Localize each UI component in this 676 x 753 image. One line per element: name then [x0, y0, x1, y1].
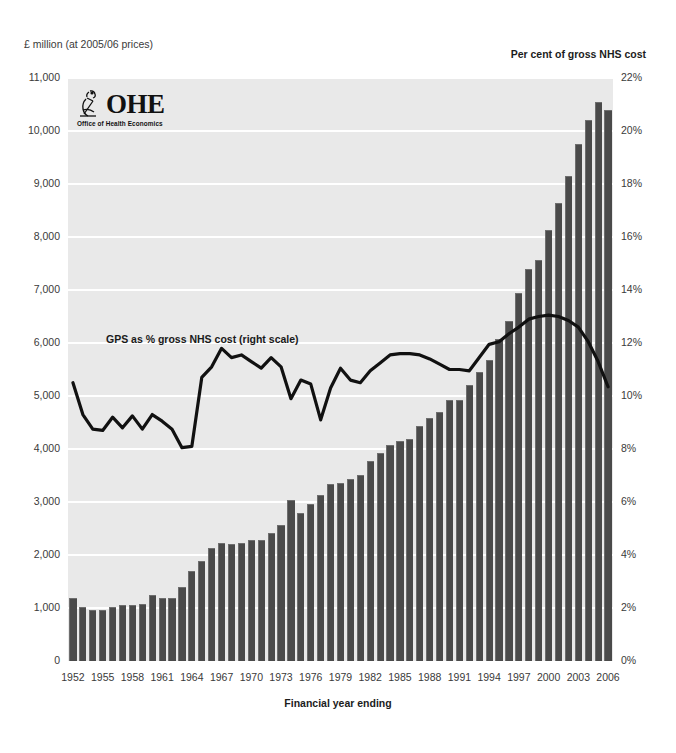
bar-1968 — [228, 544, 235, 661]
bar-1998 — [525, 269, 532, 661]
bar-1978 — [327, 484, 334, 661]
y-tick-left-10,000: 10,000 — [0, 124, 60, 136]
y-tick-left-9,000: 9,000 — [0, 177, 60, 189]
bar-1967 — [218, 543, 225, 661]
chart-figure: £ million (at 2005/06 prices) Per cent o… — [0, 0, 676, 753]
right-axis-caption: Per cent of gross NHS cost — [511, 48, 646, 60]
bar-2003 — [575, 144, 582, 661]
x-tick-2006: 2006 — [588, 671, 628, 683]
y-tick-left-6,000: 6,000 — [0, 336, 60, 348]
bar-1959 — [139, 604, 146, 661]
bar-2006 — [604, 110, 611, 661]
ohe-logo-subtitle: Office of Health Economics — [77, 120, 163, 127]
bar-2005 — [595, 102, 602, 661]
y-tick-left-4,000: 4,000 — [0, 442, 60, 454]
bar-1993 — [476, 372, 483, 661]
y-tick-left-1,000: 1,000 — [0, 601, 60, 613]
bar-1997 — [515, 293, 522, 661]
clipped-header-text — [0, 0, 676, 10]
bar-1954 — [89, 610, 96, 661]
bar-1987 — [416, 426, 423, 661]
bar-1965 — [198, 561, 205, 661]
bar-1990 — [446, 400, 453, 661]
bar-1996 — [505, 321, 512, 661]
y-tick-right-6%: 6% — [621, 495, 661, 507]
bar-1962 — [168, 598, 175, 661]
bar-1969 — [238, 543, 245, 661]
bar-1977 — [317, 495, 324, 661]
bar-1979 — [337, 483, 344, 661]
y-tick-right-10%: 10% — [621, 389, 661, 401]
y-tick-left-0: 0 — [0, 654, 60, 666]
bar-1992 — [466, 385, 473, 661]
bar-1988 — [426, 418, 433, 661]
series-annotation-label: GPS as % gross NHS cost (right scale) — [106, 333, 299, 345]
bar-1970 — [248, 540, 255, 661]
bar-1989 — [436, 412, 443, 661]
y-tick-right-12%: 12% — [621, 336, 661, 348]
x-axis-title: Financial year ending — [0, 697, 676, 709]
bar-1994 — [486, 360, 493, 661]
bar-1985 — [396, 441, 403, 661]
bar-1980 — [347, 479, 354, 661]
y-tick-right-16%: 16% — [621, 230, 661, 242]
bar-1972 — [268, 533, 275, 661]
y-tick-left-8,000: 8,000 — [0, 230, 60, 242]
y-tick-left-3,000: 3,000 — [0, 495, 60, 507]
bar-2000 — [545, 230, 552, 661]
y-tick-left-5,000: 5,000 — [0, 389, 60, 401]
bar-1961 — [159, 598, 166, 661]
y-tick-right-14%: 14% — [621, 283, 661, 295]
gridline — [68, 78, 613, 79]
bar-2004 — [585, 120, 592, 661]
y-tick-right-0%: 0% — [621, 654, 661, 666]
bar-1995 — [495, 339, 502, 661]
gridline — [68, 236, 613, 238]
bar-1984 — [386, 445, 393, 661]
y-tick-right-8%: 8% — [621, 442, 661, 454]
bar-1963 — [178, 587, 185, 661]
bar-1976 — [307, 504, 314, 661]
bar-1964 — [188, 571, 195, 661]
bar-1991 — [456, 400, 463, 661]
bar-2001 — [555, 203, 562, 661]
bar-1952 — [69, 598, 76, 661]
ohe-logo: OHE Office of Health Economics — [76, 88, 186, 134]
bar-1999 — [535, 260, 542, 661]
bar-1966 — [208, 548, 215, 661]
bar-1986 — [406, 439, 413, 661]
y-tick-left-11,000: 11,000 — [0, 71, 60, 83]
bar-1960 — [149, 595, 156, 661]
bar-1973 — [277, 525, 284, 661]
microscope-icon — [76, 88, 106, 122]
bar-1958 — [129, 605, 136, 661]
gridline — [68, 183, 613, 185]
left-axis-caption: £ million (at 2005/06 prices) — [24, 38, 153, 50]
bar-2002 — [565, 176, 572, 661]
bar-1974 — [287, 500, 294, 661]
y-tick-right-4%: 4% — [621, 548, 661, 560]
bar-1975 — [297, 513, 304, 661]
y-tick-right-22%: 22% — [621, 71, 661, 83]
y-tick-left-2,000: 2,000 — [0, 548, 60, 560]
y-tick-right-2%: 2% — [621, 601, 661, 613]
y-tick-left-7,000: 7,000 — [0, 283, 60, 295]
bar-1957 — [119, 605, 126, 661]
bar-1982 — [367, 461, 374, 661]
y-tick-right-18%: 18% — [621, 177, 661, 189]
bar-1983 — [377, 453, 384, 661]
plot-area: GPS as % gross NHS cost (right scale) OH… — [68, 78, 613, 661]
y-tick-right-20%: 20% — [621, 124, 661, 136]
bar-1971 — [258, 540, 265, 661]
bar-1953 — [79, 607, 86, 661]
bar-1956 — [109, 607, 116, 661]
ohe-logo-text: OHE — [106, 90, 165, 118]
bar-1981 — [357, 475, 364, 661]
bar-1955 — [99, 610, 106, 661]
